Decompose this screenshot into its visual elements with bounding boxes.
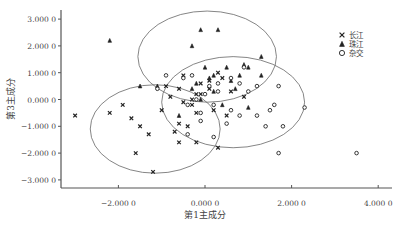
circle-marker-icon [229,76,233,80]
x-marker-icon [221,76,225,80]
legend-label: 杂交 [349,48,364,58]
circle-marker-icon [208,84,212,88]
circle-marker-icon [238,82,242,86]
x-marker-icon [340,33,345,38]
triangle-marker-icon [247,65,251,69]
circle-marker-icon [195,98,199,102]
circle-marker-icon [216,82,220,86]
x-marker-icon [229,90,233,94]
x-marker-icon [190,98,194,102]
x-marker-icon [108,111,112,115]
triangle-marker-icon [212,73,216,77]
triangle-marker-icon [190,44,194,48]
circle-marker-icon [199,111,203,115]
circle-marker-icon [255,84,259,88]
triangle-marker-icon [259,55,263,59]
circle-marker-icon [255,114,259,118]
series-triangle [108,28,263,118]
circle-marker-icon [272,103,276,107]
legend: 长江珠江杂交 [339,30,364,58]
y-tick-label: −3.000 0 [21,176,56,185]
triangle-marker-icon [216,28,220,32]
circle-marker-icon [264,125,268,129]
y-tick-label: 0.000 0 [27,96,56,105]
circle-marker-icon [355,151,359,155]
y-ticks: 3.000 02.000 01.000 00.000 0−1.000 0−2.0… [21,15,61,185]
circle-marker-icon [281,125,285,129]
confidence-ellipses [90,11,304,173]
x-marker-icon [199,92,203,96]
circle-marker-icon [225,122,229,126]
y-tick-label: 2.000 0 [27,42,56,51]
circle-marker-icon [238,114,242,118]
y-tick-label: 3.000 0 [27,15,56,24]
triangle-marker-icon [212,89,216,93]
x-tick-label: 4.000 0 [364,199,393,208]
triangle-marker-icon [259,73,263,77]
x-marker-icon [177,122,181,126]
triangle-marker-icon [234,87,238,91]
circle-marker-icon [339,50,344,55]
circle-marker-icon [164,74,168,78]
x-marker-icon [186,125,190,129]
x-marker-icon [199,82,203,86]
circle-marker-icon [242,66,246,70]
circle-marker-icon [199,119,203,123]
legend-label: 长江 [349,30,364,40]
circle-marker-icon [277,151,281,155]
circle-marker-icon [277,84,281,88]
circle-marker-icon [190,74,194,78]
x-marker-icon [147,133,151,137]
data-points [73,28,358,174]
x-marker-icon [130,116,134,120]
x-marker-icon [225,114,229,118]
x-marker-icon [177,141,181,145]
legend-label: 珠江 [349,39,364,49]
series-circle [156,66,359,155]
y-tick-label: −1.000 0 [21,122,56,131]
x-marker-icon [134,151,138,155]
triangle-marker-icon [203,65,207,69]
triangle-marker-icon [108,38,112,42]
x-marker-icon [216,71,220,75]
circle-marker-icon [268,108,272,112]
triangle-marker-icon [221,103,225,107]
triangle-marker-icon [340,41,345,46]
triangle-marker-icon [247,105,251,109]
circle-marker-icon [247,90,251,94]
x-marker-icon [138,125,142,129]
x-marker-icon [182,100,186,104]
x-tick-label: −2.000 0 [101,199,136,208]
triangle-marker-icon [177,113,181,117]
x-marker-icon [164,84,168,88]
triangle-marker-icon [199,28,203,32]
y-tick-label: 1.000 0 [27,69,56,78]
x-marker-icon [121,103,125,107]
x-marker-icon [190,103,194,107]
x-marker-icon [195,111,199,115]
triangle-marker-icon [238,73,242,77]
triangle-marker-icon [208,76,212,80]
circle-marker-icon [303,106,307,110]
circle-marker-icon [156,87,160,91]
circle-marker-icon [186,133,190,137]
y-axis-label: 第3主成分 [5,78,16,120]
triangle-marker-icon [190,87,194,91]
circle-marker-icon [212,135,216,139]
x-marker-icon [73,114,77,118]
series-x [73,71,245,174]
circle-marker-icon [216,90,220,94]
circle-marker-icon [229,108,233,112]
triangle-marker-icon [225,65,229,69]
x-tick-label: 2.000 0 [277,199,306,208]
y-tick-label: −2.000 0 [21,149,56,158]
circle-marker-icon [212,103,216,107]
x-axis-label: 第1主成分 [184,209,226,220]
circle-marker-icon [186,103,190,107]
circle-marker-icon [203,92,207,96]
x-marker-icon [173,130,177,134]
circle-marker-icon [182,76,186,80]
x-tick-label: 0.000 0 [191,199,220,208]
scatter-chart: 3.000 02.000 01.000 00.000 0−1.000 0−2.0… [0,0,398,226]
triangle-marker-icon [195,81,199,85]
